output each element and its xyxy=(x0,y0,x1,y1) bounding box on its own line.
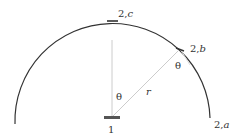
radius-line xyxy=(112,49,180,117)
label-center-1: 1 xyxy=(108,124,114,135)
tangent-tick xyxy=(180,49,190,65)
label-2a: 2,a xyxy=(214,119,230,130)
source-marker xyxy=(104,116,120,119)
label-radius-r: r xyxy=(146,86,152,97)
label-2b: 2,b xyxy=(190,43,206,54)
label-theta-center: θ xyxy=(116,91,122,102)
diagram-canvas: 2,c 2,b 2,a 1 r θ θ xyxy=(0,0,242,138)
label-2c: 2,c xyxy=(118,8,134,19)
label-theta-arc: θ xyxy=(175,60,181,71)
